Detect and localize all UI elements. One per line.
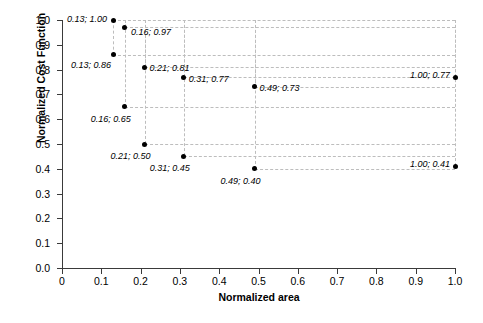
x-tick-label: 0	[47, 275, 77, 287]
gridline-horizontal	[113, 55, 455, 56]
gridline-vertical	[113, 20, 114, 55]
gridline-horizontal	[125, 107, 455, 108]
data-point-label: 0.13; 1.00	[67, 14, 107, 24]
gridline-vertical	[125, 20, 126, 107]
data-point-label: 0.13; 0.86	[71, 60, 111, 70]
y-tick-label: 0.0	[22, 262, 50, 274]
x-tick-mark	[298, 269, 299, 274]
data-point-marker	[122, 25, 127, 30]
y-tick-mark	[57, 144, 62, 145]
x-tick-mark	[219, 269, 220, 274]
y-tick-label: 0.1	[22, 237, 50, 249]
y-tick-label: 0.4	[22, 163, 50, 175]
x-tick-label: 1.0	[440, 275, 470, 287]
data-point-marker	[142, 142, 147, 147]
y-tick-mark	[57, 119, 62, 120]
x-tick-label: 0.8	[361, 275, 391, 287]
y-axis-line	[62, 20, 63, 269]
x-tick-mark	[141, 269, 142, 274]
data-point-label: 0.21; 0.50	[110, 151, 150, 161]
y-tick-mark	[57, 94, 62, 95]
gridline-horizontal	[125, 27, 455, 28]
data-point-label: 0.16; 0.65	[91, 114, 131, 124]
y-tick-label: 0.2	[22, 212, 50, 224]
gridline-horizontal	[145, 144, 455, 145]
data-point-label: 0.31; 0.45	[150, 163, 190, 173]
y-axis-title: Normalized Cost Function	[35, 0, 47, 163]
y-tick-mark	[57, 169, 62, 170]
data-point-marker	[252, 84, 257, 89]
x-tick-label: 0.9	[401, 275, 431, 287]
data-point-marker	[453, 164, 458, 169]
gridline-vertical	[255, 20, 256, 169]
x-tick-mark	[180, 269, 181, 274]
x-tick-mark	[455, 269, 456, 274]
data-point-label: 0.49; 0.73	[260, 83, 300, 93]
x-tick-mark	[376, 269, 377, 274]
data-point-marker	[122, 104, 127, 109]
x-tick-mark	[259, 269, 260, 274]
y-tick-mark	[57, 218, 62, 219]
data-point-marker	[111, 18, 116, 23]
data-point-marker	[453, 75, 458, 80]
data-point-marker	[181, 75, 186, 80]
y-tick-mark	[57, 243, 62, 244]
x-tick-label: 0.6	[283, 275, 313, 287]
data-point-label: 0.49; 0.40	[221, 176, 261, 186]
x-tick-label: 0.5	[244, 275, 274, 287]
x-tick-mark	[62, 269, 63, 274]
gridline-horizontal	[184, 156, 455, 157]
gridline-vertical	[145, 20, 146, 144]
x-tick-label: 0.1	[86, 275, 116, 287]
x-tick-mark	[101, 269, 102, 274]
gridline-vertical	[455, 20, 456, 166]
x-axis-title: Normalized area	[62, 291, 456, 303]
x-tick-label: 0.4	[204, 275, 234, 287]
x-tick-mark	[337, 269, 338, 274]
x-tick-label: 0.2	[126, 275, 156, 287]
x-tick-label: 0.7	[322, 275, 352, 287]
data-point-marker	[252, 166, 257, 171]
data-point-marker	[181, 154, 186, 159]
data-point-marker	[142, 65, 147, 70]
x-tick-mark	[416, 269, 417, 274]
y-tick-mark	[57, 194, 62, 195]
gridline-vertical	[184, 20, 185, 156]
y-tick-label: 0.3	[22, 188, 50, 200]
data-point-label: 0.16; 0.97	[131, 27, 171, 37]
y-tick-mark	[57, 45, 62, 46]
scatter-chart: 0.00.10.20.30.40.50.60.70.80.91.000.10.2…	[0, 0, 483, 323]
y-tick-mark	[57, 70, 62, 71]
data-point-marker	[111, 52, 116, 57]
y-tick-mark	[57, 20, 62, 21]
data-point-label: 1.00; 0.77	[410, 70, 450, 80]
data-point-label: 0.31; 0.77	[189, 74, 229, 84]
data-point-label: 1.00; 0.41	[410, 159, 450, 169]
gridline-horizontal	[145, 67, 455, 68]
gridline-horizontal	[113, 20, 455, 21]
x-tick-label: 0.3	[165, 275, 195, 287]
data-point-label: 0.21; 0.81	[150, 63, 190, 73]
